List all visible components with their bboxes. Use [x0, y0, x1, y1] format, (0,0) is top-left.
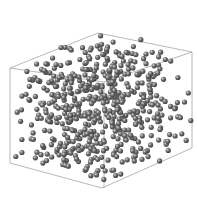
- particle-sphere: [39, 116, 44, 121]
- particle-sphere: [40, 161, 45, 166]
- particle-sphere: [128, 133, 133, 138]
- particle-sphere: [118, 63, 123, 68]
- particle-sphere: [84, 167, 89, 172]
- particle-sphere: [130, 65, 135, 70]
- particle-sphere: [126, 67, 131, 72]
- particle-sphere: [110, 79, 115, 84]
- particle-sphere: [60, 121, 65, 126]
- particle-sphere: [98, 90, 103, 95]
- particle-sphere: [103, 124, 108, 129]
- particle-sphere: [61, 95, 66, 100]
- particle-sphere: [54, 62, 59, 67]
- particle-sphere: [107, 108, 112, 113]
- particle-sphere: [94, 141, 99, 146]
- particle-sphere: [126, 62, 131, 67]
- particle-sphere: [156, 138, 161, 143]
- particle-sphere: [47, 119, 52, 124]
- particle-sphere: [147, 109, 152, 114]
- particle-sphere: [49, 154, 54, 159]
- particle-sphere: [53, 84, 58, 89]
- particle-sphere: [49, 142, 54, 147]
- particle-sphere: [68, 113, 73, 118]
- particle-sphere: [115, 136, 120, 141]
- particle-sphere: [154, 93, 159, 98]
- particle-sphere: [57, 152, 62, 157]
- particle-sphere: [65, 126, 70, 131]
- particle-sphere: [118, 148, 123, 153]
- particle-sphere: [141, 56, 146, 61]
- particle-sphere: [26, 97, 31, 102]
- particle-sphere: [68, 90, 73, 95]
- particle-sphere: [33, 155, 38, 160]
- particle-sphere: [114, 69, 119, 74]
- particle-sphere: [168, 59, 173, 64]
- simulation-box-canvas: [0, 0, 197, 197]
- particle-sphere: [61, 86, 66, 91]
- particle-sphere: [57, 75, 62, 80]
- particle-sphere: [62, 152, 67, 157]
- particle-sphere: [74, 156, 79, 161]
- particle-sphere: [101, 100, 106, 105]
- particle-sphere: [51, 74, 56, 79]
- particle-sphere: [68, 151, 73, 156]
- particle-sphere: [115, 144, 120, 149]
- particle-sphere: [110, 92, 115, 97]
- particle-sphere: [148, 94, 153, 99]
- particle-sphere: [101, 177, 106, 182]
- particle-sphere: [65, 135, 70, 140]
- particle-sphere: [124, 50, 129, 55]
- particle-sphere: [163, 99, 168, 104]
- particle-sphere: [98, 33, 103, 38]
- particle-sphere: [19, 137, 24, 142]
- particle-sphere: [112, 64, 117, 69]
- particle-sphere: [56, 106, 61, 111]
- particle-sphere: [122, 118, 127, 123]
- particle-sphere: [133, 52, 138, 57]
- particle-sphere: [72, 95, 77, 100]
- particle-sphere: [131, 44, 136, 49]
- particle-sphere: [83, 122, 88, 127]
- particle-sphere: [47, 129, 52, 134]
- particle-sphere: [132, 108, 137, 113]
- particle-sphere: [132, 158, 137, 163]
- particle-sphere: [34, 107, 39, 112]
- particle-sphere: [80, 45, 85, 50]
- particle-simulation-render: [0, 0, 197, 197]
- particle-sphere: [88, 160, 93, 165]
- particle-sphere: [182, 99, 187, 104]
- particle-sphere: [52, 98, 57, 103]
- particle-sphere: [106, 115, 111, 120]
- particle-sphere: [155, 70, 160, 75]
- particle-sphere: [89, 87, 94, 92]
- particle-sphere: [92, 117, 97, 122]
- particle-sphere: [143, 61, 148, 66]
- particle-sphere: [122, 127, 127, 132]
- particle-sphere: [89, 77, 94, 82]
- particle-sphere: [66, 164, 71, 169]
- particle-sphere: [88, 47, 93, 52]
- particle-sphere: [83, 85, 88, 90]
- particle-sphere: [143, 149, 148, 154]
- particle-sphere: [27, 77, 32, 82]
- particle-sphere: [156, 102, 161, 107]
- particle-sphere: [34, 61, 39, 66]
- particle-sphere: [63, 107, 68, 112]
- particle-sphere: [111, 40, 116, 45]
- particle-sphere: [83, 50, 88, 55]
- particle-sphere: [175, 100, 180, 105]
- particle-sphere: [58, 63, 63, 68]
- particle-sphere: [87, 56, 92, 61]
- particle-sphere: [62, 144, 67, 149]
- particle-sphere: [146, 74, 151, 79]
- particle-sphere: [129, 88, 134, 93]
- particle-sphere: [105, 75, 110, 80]
- particle-sphere: [95, 83, 100, 88]
- particle-sphere: [44, 110, 49, 115]
- particle-sphere: [29, 122, 34, 127]
- particle-sphere: [50, 136, 55, 141]
- particle-sphere: [136, 101, 141, 106]
- particle-sphere: [135, 85, 140, 90]
- particle-sphere: [155, 111, 160, 116]
- particle-sphere: [138, 146, 143, 151]
- particle-sphere: [27, 84, 32, 89]
